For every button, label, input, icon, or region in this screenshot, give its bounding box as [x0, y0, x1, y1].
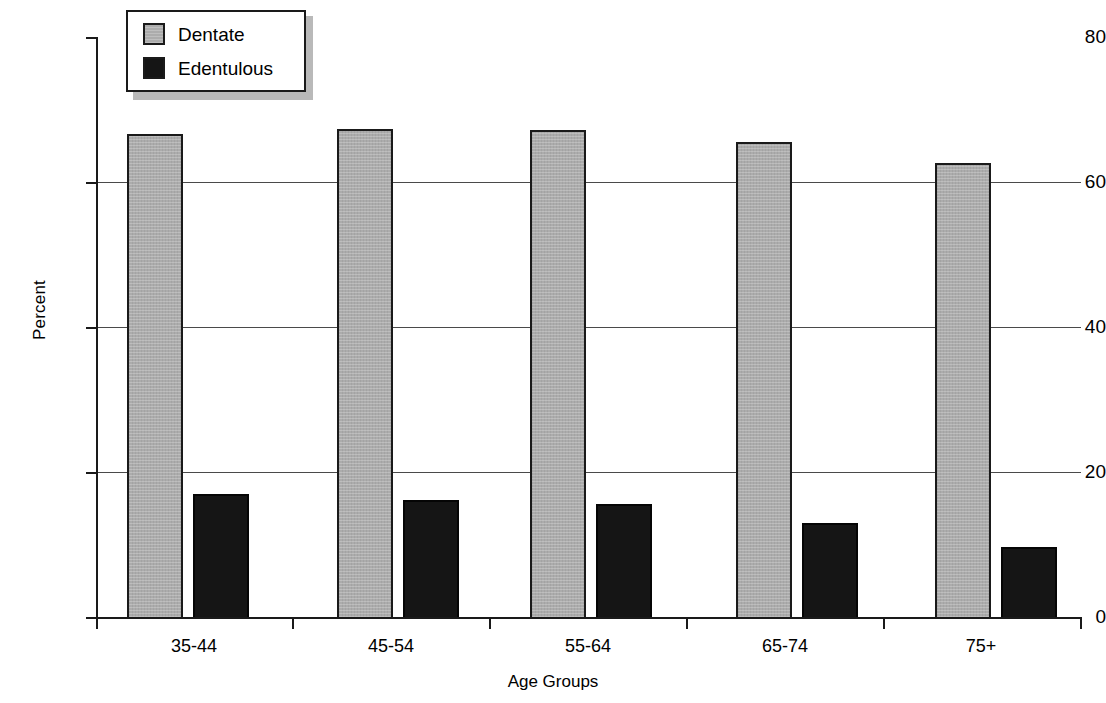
gridline-40 — [96, 327, 1081, 328]
y-tick-label-20: 20 — [1044, 462, 1106, 481]
y-tick-label-80: 80 — [1044, 27, 1106, 46]
chart-legend: Dentate Edentulous — [126, 10, 306, 92]
y-tick-mark-80 — [86, 37, 97, 39]
y-tick-label-40: 40 — [1044, 317, 1106, 336]
bar-dentate-35-44 — [127, 134, 183, 619]
legend-label-dentate: Dentate — [178, 25, 245, 44]
y-tick-mark-60 — [86, 182, 97, 184]
bar-chart: Percent 80 60 40 20 0 35-44 45-54 55-64 … — [0, 0, 1106, 703]
legend-label-edentulous: Edentulous — [178, 59, 273, 78]
bar-dentate-65-74 — [736, 142, 792, 619]
bar-dentate-45-54 — [337, 129, 393, 619]
y-axis-title: Percent — [30, 250, 50, 370]
gray-swatch-icon — [143, 23, 165, 45]
black-swatch-icon — [143, 57, 165, 79]
x-tick-label-65-74: 65-74 — [705, 636, 865, 657]
bar-dentate-55-64 — [530, 130, 586, 619]
bar-dentate-75-plus — [935, 163, 991, 619]
x-tick-label-35-44: 35-44 — [114, 636, 274, 657]
bar-edentulous-65-74 — [802, 523, 858, 619]
legend-entry-dentate: Dentate — [143, 23, 245, 45]
gridline-20 — [96, 472, 1081, 473]
x-tick-mark-2 — [489, 619, 491, 629]
y-tick-mark-40 — [86, 327, 97, 329]
bar-edentulous-55-64 — [596, 504, 652, 619]
x-tick-mark-4 — [883, 619, 885, 629]
x-tick-label-55-64: 55-64 — [508, 636, 668, 657]
x-tick-mark-0 — [96, 619, 98, 629]
y-tick-mark-20 — [86, 472, 97, 474]
y-tick-label-60: 60 — [1044, 172, 1106, 191]
bar-edentulous-45-54 — [403, 500, 459, 619]
x-axis-line — [96, 617, 1082, 619]
bar-edentulous-35-44 — [193, 494, 249, 619]
x-tick-mark-5 — [1080, 619, 1082, 629]
x-tick-mark-3 — [686, 619, 688, 629]
x-tick-label-75-plus: 75+ — [901, 636, 1061, 657]
x-tick-mark-1 — [292, 619, 294, 629]
bar-edentulous-75-plus — [1001, 547, 1057, 619]
gridline-60 — [96, 182, 1081, 183]
x-axis-title: Age Groups — [0, 672, 1106, 692]
x-tick-label-45-54: 45-54 — [311, 636, 471, 657]
legend-entry-edentulous: Edentulous — [143, 57, 273, 79]
